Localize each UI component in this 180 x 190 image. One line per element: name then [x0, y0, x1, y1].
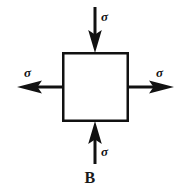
top-stress-label: σ [101, 10, 108, 23]
stress-element-figure: σ σ σ σ B [0, 0, 180, 190]
right-stress-label: σ [156, 66, 163, 79]
right-arrow [128, 81, 174, 94]
stress-diagram-svg [0, 0, 180, 190]
figure-caption: B [0, 170, 180, 186]
bottom-arrow [88, 121, 102, 164]
bottom-stress-label: σ [101, 145, 108, 158]
stress-element-square [63, 53, 128, 121]
top-arrow [88, 7, 102, 53]
left-arrow [17, 81, 63, 94]
left-stress-label: σ [24, 66, 31, 79]
